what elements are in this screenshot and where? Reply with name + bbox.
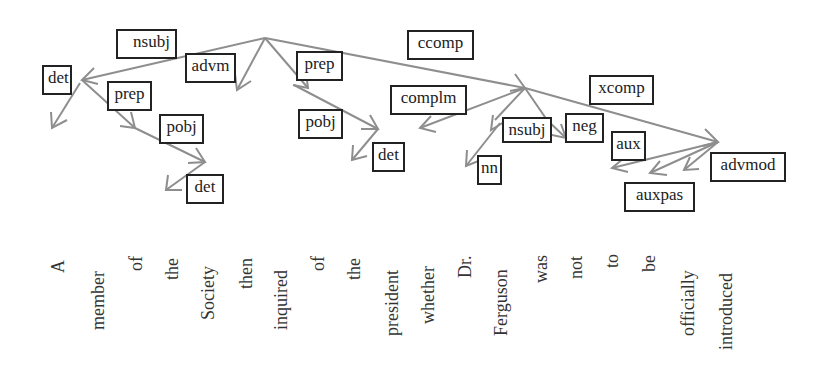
- token-of: of: [126, 256, 147, 271]
- token-Society: Society: [198, 266, 219, 320]
- token-member: member: [88, 271, 109, 330]
- label-nn: nn: [477, 155, 502, 185]
- token-then: then: [236, 258, 257, 289]
- label-det: det: [186, 174, 224, 204]
- token-Ferguson: Ferguson: [491, 269, 512, 336]
- token-whether: whether: [418, 266, 439, 324]
- label-prep: prep: [296, 51, 343, 81]
- label-pobj: pobj: [298, 109, 343, 139]
- label-ccomp: ccomp: [407, 30, 474, 60]
- token-inquired: inquired: [271, 270, 292, 330]
- token-president: president: [382, 270, 403, 336]
- label-prep: prep: [107, 81, 152, 111]
- token-to: to: [602, 254, 623, 268]
- label-neg: neg: [565, 113, 604, 143]
- label-xcomp: xcomp: [589, 75, 654, 105]
- arrowhead-icon: [650, 161, 667, 175]
- token-A: A: [48, 260, 69, 273]
- edge-advm-inquired-then: [237, 38, 265, 90]
- label-pobj: pobj: [159, 114, 204, 144]
- dependency-parse-diagram: nsubj det advm prep pobj det prep pobj d…: [0, 0, 827, 365]
- label-det: det: [372, 142, 405, 172]
- label-advm: advm: [185, 53, 236, 83]
- label-nsubj: nsubj: [502, 117, 552, 143]
- token-was: was: [531, 255, 552, 283]
- arrowhead-icon: [235, 74, 251, 90]
- label-complm: complm: [390, 85, 467, 115]
- label-nsubj: nsubj: [116, 29, 177, 59]
- token-the: the: [344, 258, 365, 280]
- token-officially: officially: [678, 270, 699, 336]
- token-be: be: [639, 255, 660, 272]
- token-of: of: [308, 256, 329, 271]
- label-aux: aux: [611, 131, 646, 161]
- label-auxpas: auxpas: [624, 182, 695, 212]
- token-the: the: [162, 258, 183, 280]
- label-det: det: [42, 65, 72, 95]
- label-advmod: advmod: [710, 152, 786, 182]
- token-not: not: [566, 256, 587, 279]
- token-Dr: Dr.: [455, 256, 476, 279]
- token-introduced: introduced: [716, 273, 737, 350]
